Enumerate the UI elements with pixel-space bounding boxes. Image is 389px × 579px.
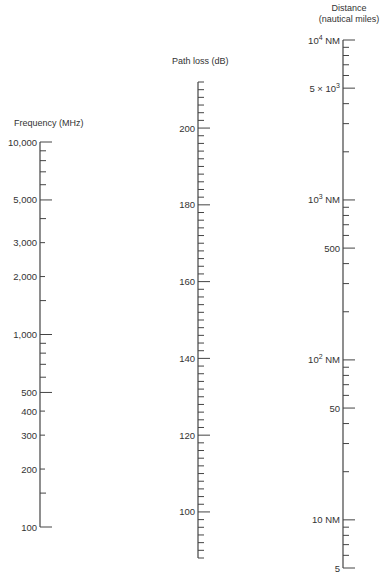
tick-label: 200	[179, 123, 195, 134]
tick-label: 10 NM	[312, 514, 340, 525]
tick-label: 120	[179, 430, 195, 441]
tick-label: 102 NM	[308, 353, 340, 365]
distance-scale-title: Distance	[331, 3, 366, 13]
tick-label: 50	[329, 403, 340, 414]
tick-label: 10,000	[8, 137, 37, 148]
tick-label: 500	[21, 387, 37, 398]
tick-label: 103 NM	[308, 193, 340, 205]
tick-label: 300	[21, 430, 37, 441]
tick-label: 1,000	[13, 329, 37, 340]
frequency-scale: Frequency (MHz)10,0005,0003,0002,0001,00…	[8, 118, 84, 533]
tick-label: 3,000	[13, 237, 37, 248]
distance-scale-subtitle: (nautical miles)	[319, 14, 380, 24]
tick-label: 160	[179, 276, 195, 287]
tick-label: 104 NM	[308, 34, 340, 46]
path_loss-scale: Path loss (dB)200180160140120100	[172, 56, 229, 558]
tick-label: 2,000	[13, 271, 37, 282]
tick-label: 180	[179, 199, 195, 210]
tick-label: 100	[21, 522, 37, 533]
nomograph: Frequency (MHz)10,0005,0003,0002,0001,00…	[0, 0, 389, 579]
frequency-scale-title: Frequency (MHz)	[14, 118, 84, 128]
tick-label: 500	[324, 243, 340, 254]
distance-scale: Distance(nautical miles)104 NM5 × 103103…	[308, 3, 379, 574]
tick-label: 5,000	[13, 194, 37, 205]
path-loss-scale-title: Path loss (dB)	[172, 56, 229, 66]
tick-label: 200	[21, 464, 37, 475]
tick-label: 400	[21, 406, 37, 417]
tick-label: 5 × 103	[309, 82, 340, 94]
tick-label: 5	[335, 563, 340, 574]
tick-label: 140	[179, 353, 195, 364]
tick-label: 100	[179, 506, 195, 517]
